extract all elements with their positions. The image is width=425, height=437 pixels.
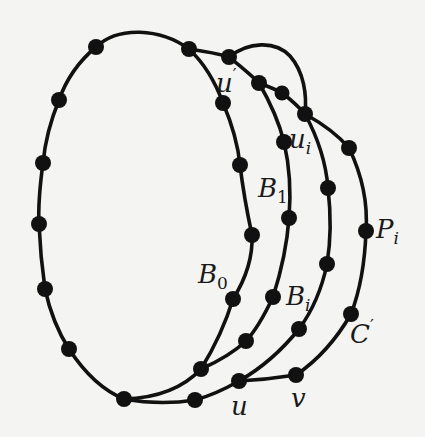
node xyxy=(341,140,357,156)
node xyxy=(88,39,104,55)
node xyxy=(297,106,313,122)
label-B1: B1 xyxy=(257,173,288,207)
node xyxy=(35,155,51,171)
edge-B1 xyxy=(201,57,290,369)
node xyxy=(319,256,335,272)
node xyxy=(31,216,47,232)
node xyxy=(251,75,267,91)
node xyxy=(221,49,237,65)
node xyxy=(116,391,132,407)
node xyxy=(51,92,67,108)
label-P-i: Pi xyxy=(375,214,399,248)
node xyxy=(320,180,336,196)
node xyxy=(61,341,77,357)
node xyxy=(193,361,209,377)
node xyxy=(265,289,281,305)
node xyxy=(37,281,53,297)
label-u-i: ui xyxy=(289,124,311,158)
label-C-prime: C′ xyxy=(350,315,374,349)
node xyxy=(281,210,297,226)
node xyxy=(238,333,254,349)
label-u: u xyxy=(231,391,248,421)
node-u xyxy=(231,373,247,389)
node xyxy=(181,41,197,57)
node xyxy=(291,321,307,337)
label-v: v xyxy=(291,383,306,413)
node xyxy=(244,227,260,243)
node xyxy=(232,157,248,173)
node xyxy=(358,223,374,239)
label-B-i: Bi xyxy=(285,281,311,315)
node-v xyxy=(288,367,304,383)
node xyxy=(225,291,241,307)
node xyxy=(187,392,203,408)
label-u-prime: u′ xyxy=(216,64,237,98)
label-B0: B0 xyxy=(197,259,228,293)
edge-B0 xyxy=(124,49,252,399)
edge-outer-loop xyxy=(39,32,189,399)
node xyxy=(275,86,290,101)
graph-diagram: u′ ui B1 Pi B0 Bi C′ u v xyxy=(0,0,425,437)
